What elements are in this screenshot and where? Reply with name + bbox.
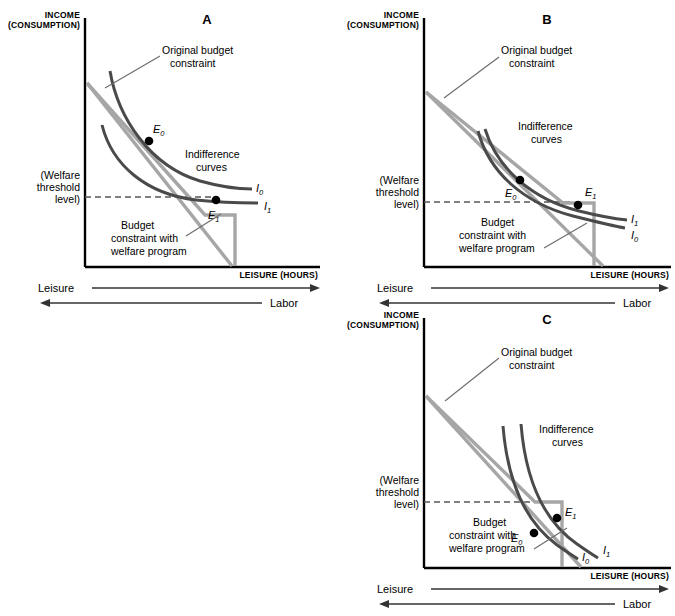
panel-a-point-e1 bbox=[212, 196, 221, 205]
panel-a-original-budget-label-line2: constraint bbox=[170, 57, 216, 69]
panel-c-x-axis-title: LEISURE (HOURS) bbox=[590, 571, 669, 581]
panel-a-letter: A bbox=[202, 12, 212, 27]
panel-c-threshold-label-line2: threshold bbox=[376, 486, 419, 498]
panel-c-welfare-budget-label-line1: Budget bbox=[473, 516, 506, 528]
panel-a-direction-arrows: Leisure Labor bbox=[38, 282, 320, 309]
panel-c-original-budget-label-line2: constraint bbox=[509, 359, 555, 371]
panel-a-welfare-budget-label-line2: constraint with bbox=[111, 232, 178, 244]
panel-c-leisure-direction-label: Leisure bbox=[377, 583, 413, 595]
panel-b-letter: B bbox=[542, 12, 551, 27]
panel-b-label-i0: I0 bbox=[631, 229, 639, 244]
panel-c-point-e0 bbox=[530, 529, 539, 538]
panel-b-threshold-label-line3: level) bbox=[394, 198, 419, 210]
panel-a-indifference-curve-i1 bbox=[102, 125, 258, 203]
panel-a-labor-direction-label: Labor bbox=[270, 297, 298, 309]
panel-c-point-e1 bbox=[553, 514, 562, 523]
panel-b-indifference-label-line1: Indifference bbox=[518, 120, 573, 132]
panel-a-original-budget-label-line1: Original budget bbox=[162, 44, 233, 56]
panel-c-y-axis-title-line1: INCOME bbox=[384, 310, 419, 320]
panel-b-welfare-budget-label-line2: constraint with bbox=[459, 229, 526, 241]
panel-c-threshold-label-line1: (Welfare bbox=[380, 474, 420, 486]
panel-c-indifference-label-line1: Indifference bbox=[539, 423, 594, 435]
panel-c-original-budget-label-line1: Original budget bbox=[501, 346, 572, 358]
panel-b-y-axis-title-line2: (CONSUMPTION) bbox=[347, 20, 419, 30]
panel-b-original-budget-leader bbox=[444, 57, 499, 98]
panel-a-point-e0 bbox=[145, 137, 154, 146]
panel-c-label-e1: E1 bbox=[565, 506, 577, 521]
panel-b-point-e0 bbox=[516, 176, 525, 185]
panel-b-label-e1: E1 bbox=[585, 186, 597, 201]
panel-b-leisure-direction-label: Leisure bbox=[377, 282, 413, 294]
panel-a-threshold-label-line3: level) bbox=[55, 193, 80, 205]
panel-a-threshold-label-line1: (Welfare bbox=[41, 169, 81, 181]
panel-c-labor-direction-label: Labor bbox=[623, 598, 651, 610]
panel-b-x-axis-title: LEISURE (HOURS) bbox=[590, 270, 669, 280]
panel-a-leisure-direction-label: Leisure bbox=[38, 282, 74, 294]
panel-c-letter: C bbox=[542, 312, 552, 327]
panel-b-point-e1 bbox=[574, 201, 583, 210]
panel-a-label-i0: I0 bbox=[256, 182, 264, 197]
panel-c-welfare-budget-label-line2: constraint with bbox=[449, 529, 516, 541]
panel-c-original-budget-leader bbox=[445, 358, 499, 401]
panel-b: INCOME (CONSUMPTION) LEISURE (HOURS) B (… bbox=[335, 0, 675, 310]
panel-b-welfare-budget-label-line1: Budget bbox=[481, 216, 514, 228]
panel-b-threshold-label-line2: threshold bbox=[376, 186, 419, 198]
panel-b-threshold-label-line1: (Welfare bbox=[380, 174, 420, 186]
panel-a-label-i1: I1 bbox=[264, 200, 271, 215]
panel-c-label-i1: I1 bbox=[603, 544, 610, 559]
panel-b-y-axis-title-line1: INCOME bbox=[384, 10, 419, 20]
panel-a-x-axis-title: LEISURE (HOURS) bbox=[239, 270, 318, 280]
panel-a-original-budget-leader bbox=[105, 56, 160, 88]
panel-a-indifference-label-line2: curves bbox=[196, 161, 227, 173]
panel-a-welfare-budget-label-line3: welfare program bbox=[110, 245, 187, 257]
panel-b-indifference-label-line2: curves bbox=[531, 133, 562, 145]
panel-a-threshold-label-line2: threshold bbox=[37, 181, 80, 193]
panel-b-direction-arrows: Leisure Labor bbox=[377, 282, 669, 309]
panel-c-y-axis-title-line2: (CONSUMPTION) bbox=[347, 320, 419, 330]
panel-a-indifference-label-line1: Indifference bbox=[185, 148, 240, 160]
panel-b-original-budget-label-line2: constraint bbox=[509, 57, 555, 69]
panel-a-welfare-budget-label-line1: Budget bbox=[121, 219, 154, 231]
panel-c-indifference-label-line2: curves bbox=[552, 436, 583, 448]
panel-c-direction-arrows: Leisure Labor bbox=[377, 583, 669, 610]
panel-a-y-axis-title-line1: INCOME bbox=[45, 10, 80, 20]
panel-c-welfare-budget-label-line3: welfare program bbox=[448, 542, 525, 554]
panel-a-label-e0: E0 bbox=[153, 123, 165, 138]
panel-c: INCOME (CONSUMPTION) LEISURE (HOURS) C (… bbox=[335, 306, 675, 616]
panel-b-original-budget-label-line1: Original budget bbox=[501, 44, 572, 56]
panel-b-welfare-budget-label-line3: welfare program bbox=[458, 242, 535, 254]
panel-a: INCOME (CONSUMPTION) LEISURE (HOURS) A (… bbox=[0, 0, 340, 310]
panel-b-label-i1: I1 bbox=[631, 213, 638, 228]
panel-c-threshold-label-line3: level) bbox=[394, 498, 419, 510]
panel-a-y-axis-title-line2: (CONSUMPTION) bbox=[8, 20, 80, 30]
